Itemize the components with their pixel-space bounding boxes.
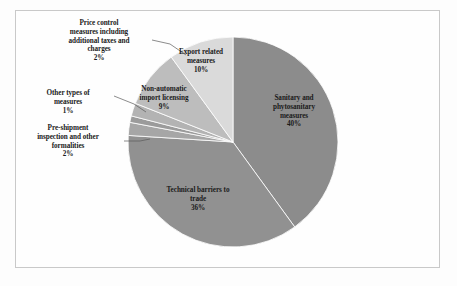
chart-figure: Price control measures including additio… <box>0 0 457 286</box>
pie-label-price-control-measures-text: Price control <box>46 19 152 28</box>
pie-value-export-related-measures: 10% <box>158 66 244 75</box>
pie-label-price-control-measures-text-3: additional taxes and <box>46 37 152 46</box>
pie-label-technical-barriers-to-trade: Technical barriers to trade 36% <box>145 186 251 212</box>
pie-label-other-types-of-measures-text-2: measures <box>22 98 114 107</box>
pie-label-export-related-measures-text: Export related <box>158 48 244 57</box>
pie-value-non-automatic-import-licensing: 9% <box>120 103 208 112</box>
pie-value-other-types-of-measures: 1% <box>22 107 114 116</box>
pie-value-technical-barriers-to-trade: 36% <box>145 204 251 213</box>
pie-label-non-automatic-import-licensing-text-2: import licensing <box>120 94 208 103</box>
pie-value-sanitary-phytosanitary-measures: 40% <box>252 120 336 129</box>
pie-label-price-control-measures-text-4: charges <box>46 45 152 54</box>
pie-label-other-types-of-measures: Other types of measures 1% <box>22 89 114 115</box>
pie-label-sanitary-phytosanitary-measures-text-2: phytosanitary <box>252 103 336 112</box>
pie-label-other-types-of-measures-text: Other types of <box>22 89 114 98</box>
pie-label-sanitary-phytosanitary-measures-text-3: measures <box>252 112 336 121</box>
pie-label-pre-shipment-inspection: Pre-shipment inspection and other formal… <box>13 124 123 159</box>
pie-label-pre-shipment-inspection-text-3: formalities <box>13 142 123 151</box>
pie-label-price-control-measures-text-2: measures including <box>46 28 152 37</box>
pie-label-pre-shipment-inspection-text-2: inspection and other <box>13 133 123 142</box>
pie-label-export-related-measures-text-2: measures <box>158 57 244 66</box>
pie-label-technical-barriers-to-trade-text: Technical barriers to <box>145 186 251 195</box>
pie-value-pre-shipment-inspection: 2% <box>13 150 123 159</box>
pie-label-non-automatic-import-licensing: Non-automatic import licensing 9% <box>120 85 208 111</box>
pie-label-export-related-measures: Export related measures 10% <box>158 48 244 74</box>
pie-value-price-control-measures: 2% <box>46 54 152 63</box>
pie-label-non-automatic-import-licensing-text: Non-automatic <box>120 85 208 94</box>
pie-label-pre-shipment-inspection-text: Pre-shipment <box>13 124 123 133</box>
pie-label-technical-barriers-to-trade-text-2: trade <box>145 195 251 204</box>
pie-label-price-control-measures: Price control measures including additio… <box>46 19 152 63</box>
pie-label-sanitary-phytosanitary-measures: Sanitary and phytosanitary measures 40% <box>252 94 336 129</box>
pie-label-sanitary-phytosanitary-measures-text: Sanitary and <box>252 94 336 103</box>
